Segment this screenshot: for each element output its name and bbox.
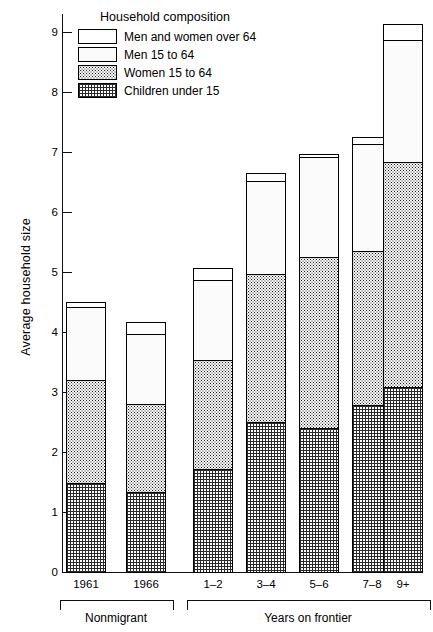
y-tick-label-3: 3 — [36, 387, 58, 399]
bar-1961[interactable] — [66, 302, 106, 573]
legend-swatch-fine-crosshatch — [78, 83, 117, 98]
bar-segment-children-under-15[interactable] — [300, 428, 338, 573]
bar-segment-children-under-15[interactable] — [194, 469, 232, 572]
y-tick-label-1: 1 — [36, 507, 58, 519]
y-axis-line — [62, 14, 63, 573]
bar-segment-children-under-15[interactable] — [384, 387, 422, 572]
y-tick-8 — [63, 92, 72, 93]
legend-swatch-white — [78, 29, 117, 44]
legend-title: Household composition — [100, 10, 256, 24]
bar-segment-men-15-to-64[interactable] — [300, 157, 338, 257]
bar-12[interactable] — [193, 268, 233, 573]
x-tick-label-12: 1–2 — [183, 578, 243, 590]
y-tick-label-0: 0 — [36, 567, 58, 579]
legend-label: Women 15 to 64 — [124, 66, 212, 80]
bar-segment-women-15-to-64[interactable] — [300, 257, 338, 427]
y-tick-label-5: 5 — [36, 267, 58, 279]
legend-items: Men and women over 64Men 15 to 64Women 1… — [78, 29, 256, 98]
bar-segment-men-and-women-over-64[interactable] — [127, 323, 165, 334]
bar-segment-men-15-to-64[interactable] — [384, 40, 422, 163]
bar-34[interactable] — [246, 173, 286, 573]
bar-segment-children-under-15[interactable] — [67, 483, 105, 572]
bar-segment-children-under-15[interactable] — [247, 422, 285, 572]
group-bracket-years-on-frontier — [187, 600, 431, 610]
legend-item-children-under-15[interactable]: Children under 15 — [78, 83, 256, 98]
bar-segment-men-15-to-64[interactable] — [67, 307, 105, 380]
y-tick-label-4: 4 — [36, 327, 58, 339]
bar-segment-men-15-to-64[interactable] — [247, 181, 285, 274]
y-tick-6 — [63, 212, 72, 213]
y-tick-label-8: 8 — [36, 87, 58, 99]
x-tick-label-9: 9+ — [373, 578, 433, 590]
legend-item-men-15-to-64[interactable]: Men 15 to 64 — [78, 47, 256, 62]
legend-swatch-dense-dots — [78, 65, 117, 80]
y-tick-9 — [63, 32, 72, 33]
bar-segment-women-15-to-64[interactable] — [384, 162, 422, 386]
y-tick-label-6: 6 — [36, 207, 58, 219]
bar-segment-women-15-to-64[interactable] — [247, 274, 285, 422]
x-tick-label-56: 5–6 — [289, 578, 349, 590]
x-tick-label-1966: 1966 — [116, 578, 176, 590]
chart-legend: Household composition Men and women over… — [78, 10, 256, 101]
legend-label: Men and women over 64 — [124, 30, 256, 44]
bar-9[interactable] — [383, 24, 423, 573]
bar-segment-women-15-to-64[interactable] — [194, 360, 232, 469]
y-tick-label-9: 9 — [36, 27, 58, 39]
x-tick-label-34: 3–4 — [236, 578, 296, 590]
legend-label: Children under 15 — [124, 84, 219, 98]
bar-segment-men-15-to-64[interactable] — [127, 334, 165, 404]
x-tick-label-1961: 1961 — [56, 578, 116, 590]
legend-label: Men 15 to 64 — [124, 48, 194, 62]
bar-segment-men-and-women-over-64[interactable] — [247, 174, 285, 181]
bar-segment-men-and-women-over-64[interactable] — [384, 25, 422, 40]
y-tick-label-7: 7 — [36, 147, 58, 159]
y-tick-5 — [63, 272, 72, 273]
legend-item-men-and-women-over-64[interactable]: Men and women over 64 — [78, 29, 256, 44]
group-label-years-on-frontier: Years on frontier — [187, 611, 429, 625]
bar-segment-children-under-15[interactable] — [127, 492, 165, 572]
bar-segment-men-and-women-over-64[interactable] — [194, 269, 232, 280]
group-bracket-nonmigrant — [60, 600, 174, 610]
legend-item-women-15-to-64[interactable]: Women 15 to 64 — [78, 65, 256, 80]
bar-segment-women-15-to-64[interactable] — [127, 404, 165, 491]
y-axis-title: Average household size — [19, 137, 33, 437]
legend-swatch-sparse-dots — [78, 47, 117, 62]
group-label-nonmigrant: Nonmigrant — [60, 611, 172, 625]
y-tick-7 — [63, 152, 72, 153]
y-tick-label-2: 2 — [36, 447, 58, 459]
bar-segment-men-15-to-64[interactable] — [194, 280, 232, 360]
bar-1966[interactable] — [126, 322, 166, 573]
bar-56[interactable] — [299, 154, 339, 573]
bar-segment-women-15-to-64[interactable] — [67, 380, 105, 482]
